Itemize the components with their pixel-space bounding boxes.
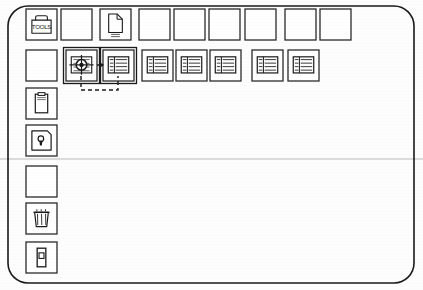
box-empty-5[interactable] [245, 9, 276, 40]
box-document[interactable] [100, 9, 131, 40]
document-body [109, 14, 123, 33]
box-empty-4-frame[interactable] [209, 9, 240, 40]
box-empty-2-frame[interactable] [139, 9, 170, 40]
list-icon [147, 57, 167, 73]
list-icon [215, 57, 235, 73]
crosshair-icon [69, 55, 93, 75]
box-empty-8[interactable] [26, 50, 57, 81]
left-column [26, 88, 57, 273]
box-empty-4[interactable] [209, 9, 240, 40]
box-empty-1[interactable] [61, 9, 92, 40]
box-empty-9-frame[interactable] [26, 166, 57, 197]
box-clipboard[interactable] [26, 88, 57, 119]
list-icon [293, 57, 313, 73]
box-empty-6[interactable] [285, 9, 316, 40]
list-icon [257, 57, 277, 73]
toolbox-label: TOOLS [32, 23, 52, 30]
box-empty-9[interactable] [26, 166, 57, 197]
box-list-6[interactable] [288, 50, 319, 81]
box-empty-3[interactable] [174, 9, 205, 40]
box-list-4[interactable] [210, 50, 241, 81]
list-icon [181, 57, 201, 73]
clipboard-body [35, 94, 47, 113]
box-list-5[interactable] [252, 50, 283, 81]
module-window [39, 253, 44, 259]
box-module[interactable] [26, 242, 57, 273]
list-split-icon [108, 57, 128, 73]
diagram-canvas: TOOLS [0, 0, 423, 290]
box-list-2[interactable] [142, 50, 173, 81]
clipboard-icon [35, 93, 47, 113]
box-empty-5-frame[interactable] [245, 9, 276, 40]
row-second [26, 48, 319, 84]
box-toolbox[interactable]: TOOLS [26, 9, 57, 40]
keyhole-ring [38, 136, 44, 142]
row-top: TOOLS [26, 9, 351, 40]
module-icon [37, 248, 46, 267]
box-empty-6-frame[interactable] [285, 9, 316, 40]
box-empty-2[interactable] [139, 9, 170, 40]
box-empty-3-frame[interactable] [174, 9, 205, 40]
box-empty-7-frame[interactable] [320, 9, 351, 40]
box-trash[interactable] [26, 203, 57, 234]
clipboard-clip [38, 93, 45, 96]
box-keyhole[interactable] [26, 125, 57, 156]
box-empty-1-frame[interactable] [61, 9, 92, 40]
trash-icon [33, 209, 49, 226]
page-background [0, 0, 423, 290]
box-list-1[interactable] [101, 48, 137, 84]
box-empty-8-frame[interactable] [26, 50, 57, 81]
keyhole-icon [32, 131, 51, 150]
diagram-svg: TOOLS [0, 0, 423, 290]
box-empty-7[interactable] [320, 9, 351, 40]
box-list-3[interactable] [176, 50, 207, 81]
